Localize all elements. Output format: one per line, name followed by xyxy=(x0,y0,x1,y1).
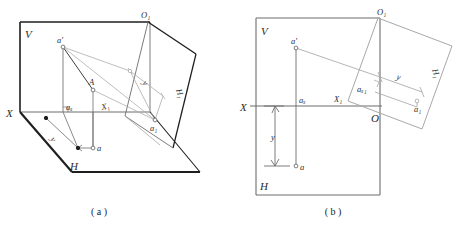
y-tick-right-b xyxy=(420,87,424,97)
label-point-ax-b: aₓ xyxy=(299,95,306,105)
diagram-a-group: V H H₁ X X₁ O₁ a' A a aₓ a₁ y y ( a ) xyxy=(5,10,200,218)
point-a-marker-a xyxy=(91,146,95,150)
figure-page: V H H₁ X X₁ O₁ a' A a aₓ a₁ y y ( a ) xyxy=(0,0,467,232)
y-dim-upper-line-b xyxy=(380,77,422,92)
label-point-A-a: A xyxy=(88,77,95,87)
point-y-origin-marker-a xyxy=(44,116,47,119)
h1-plane-top-edge xyxy=(148,22,196,54)
point-a-prime-marker-b xyxy=(294,46,298,50)
caption-a: ( a ) xyxy=(91,206,107,218)
point-a-prime-marker-a xyxy=(61,45,65,49)
y-tick-lower-a xyxy=(161,93,165,99)
label-h-plane-b: H xyxy=(259,180,269,192)
point-a1-marker-a xyxy=(153,118,157,122)
diagram-b-group: V H H₁ X X₁ O O₁ a' a aₓ aₓ₁ a₁ y y ( b … xyxy=(239,7,452,218)
y-dim-lower-line-b xyxy=(375,92,417,107)
label-point-ax-a: aₓ xyxy=(66,102,73,112)
label-o1-origin-a: O₁ xyxy=(141,10,150,20)
label-point-a-prime-b: a' xyxy=(291,36,297,46)
label-dim-y-right-b: y xyxy=(394,71,402,82)
technical-drawing-canvas: V H H₁ X X₁ O₁ a' A a aₓ a₁ y y ( a ) xyxy=(0,0,467,232)
h1-plane-bottom-edge xyxy=(125,116,173,148)
label-point-a1-b: a₁ xyxy=(414,104,421,114)
label-point-a1-a: a₁ xyxy=(150,123,157,133)
label-dim-y-left-b: y xyxy=(270,132,275,142)
point-h1-aux-marker-a xyxy=(128,69,131,72)
point-A-marker-a xyxy=(91,88,95,92)
y-arrow-head-top-b xyxy=(272,106,279,113)
label-point-a-prime-a: a' xyxy=(57,35,63,45)
label-x1-axis-b: X₁ xyxy=(333,94,342,104)
right-angle-mark-ax1-b xyxy=(374,80,379,87)
y-dim-right-close-a xyxy=(155,96,163,120)
point-a-marker-b xyxy=(294,164,298,168)
caption-b: ( b ) xyxy=(325,206,342,218)
label-x-axis-a: X xyxy=(5,107,14,119)
label-v-plane-b: V xyxy=(261,25,269,37)
label-dim-y-left-a: y xyxy=(48,134,59,143)
label-h-plane-a: H xyxy=(69,160,79,172)
h1-plane-right-edge xyxy=(173,54,196,148)
label-point-ax1-b: aₓ₁ xyxy=(357,84,367,94)
h1-plane-right-edge-b xyxy=(422,46,452,129)
label-x-axis-b: X xyxy=(239,101,248,113)
h1-upper-to-a1-line xyxy=(130,71,155,120)
label-o-origin-b: O xyxy=(371,112,379,124)
label-v-plane-a: V xyxy=(25,28,33,40)
ax-to-a-diagonal-a xyxy=(63,112,78,148)
point-a1-marker-b xyxy=(415,99,419,103)
y-dim-left-line-a xyxy=(46,118,78,148)
a-prime-to-ax1-line-b xyxy=(296,48,380,77)
h1-plane-top-edge-b xyxy=(378,18,452,46)
label-o1-origin-b: O₁ xyxy=(377,7,386,17)
label-h1-plane-a: H₁ xyxy=(174,87,187,100)
h-plane-left-edge xyxy=(20,112,72,172)
label-point-a-b: a xyxy=(300,162,304,172)
point-y-end-marker-a xyxy=(76,146,79,149)
a-prime-to-h1-upper-line xyxy=(63,47,130,71)
label-point-a-a: a xyxy=(97,143,101,153)
label-x1-axis-a: X₁ xyxy=(99,100,110,112)
